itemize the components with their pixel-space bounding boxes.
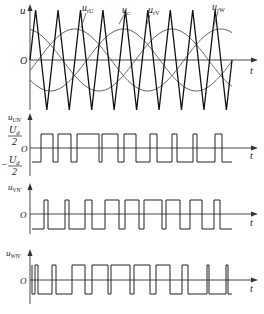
wn-x-axis-label: t <box>250 283 253 294</box>
label-uc-leader <box>119 15 124 24</box>
top-origin-label: O <box>20 55 27 66</box>
un-pos-level-denominator: 2 <box>12 136 17 147</box>
un-neg-level-denominator: 2 <box>12 166 17 177</box>
vn-y-axis-label: uVN' <box>8 182 22 193</box>
label-urU: urU <box>82 2 94 14</box>
x-axis-arrow-icon <box>251 58 258 63</box>
y-axis-arrow-icon <box>28 183 33 190</box>
y-axis-arrow-icon <box>28 249 33 256</box>
label-urV: urV <box>148 4 160 16</box>
vn-origin-label: O <box>20 210 27 220</box>
vn-plot-axes <box>28 183 259 234</box>
wn-pulse-waveform <box>32 265 232 294</box>
un-origin-label: O <box>21 144 28 154</box>
x-axis-arrow-icon <box>251 212 258 217</box>
top-x-axis-label: t <box>250 65 253 76</box>
svg-text:Ud: Ud <box>9 124 20 136</box>
spwm-waveform-diagram: uOturUucurVurWuUN'Ud2Ud−2OtuVN'OtuWN'Ot <box>0 0 264 314</box>
y-axis-arrow-icon <box>28 4 33 11</box>
un-neg-level-label: Ud <box>8 154 22 166</box>
un-pos-level-label: Ud <box>8 124 22 136</box>
vn-pulse-waveform <box>32 200 232 229</box>
wn-y-axis-label: uWN' <box>6 248 21 259</box>
vn-x-axis-label: t <box>250 217 253 228</box>
svg-text:Ud: Ud <box>9 154 20 166</box>
y-axis-arrow-icon <box>28 113 33 120</box>
wn-origin-label: O <box>20 276 27 286</box>
top-y-axis-label: u <box>20 4 26 16</box>
un-neg-sign: − <box>1 159 8 170</box>
label-urW: urW <box>212 1 225 13</box>
un-plot-axes <box>28 113 259 176</box>
wn-plot-axes <box>28 249 259 304</box>
label-uc: uc <box>122 4 130 16</box>
un-y-axis-label: uUN' <box>8 112 22 123</box>
un-x-axis-label: t <box>250 150 253 161</box>
x-axis-arrow-icon <box>251 278 258 283</box>
